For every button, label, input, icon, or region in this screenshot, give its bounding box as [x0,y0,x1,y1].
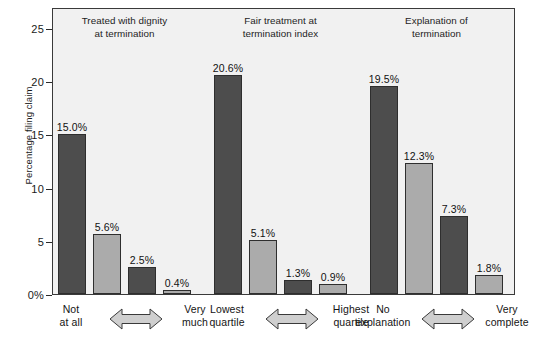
x-axis-label-left: Lowestquartile [191,303,263,328]
bar-value-label: 5.1% [241,227,285,239]
y-axis-tick-label: 15 [0,128,44,142]
x-axis-label-left-line-2: quartile [191,316,263,329]
double-arrow-icon [421,308,475,334]
group-title: Fair treatment attermination index [196,15,365,40]
x-axis-label-left-line-1: Lowest [191,303,263,316]
bar-value-label: 5.6% [85,221,129,233]
y-axis-tick-label: 0% [0,288,44,302]
plot-area: Treated with dignityat termination15.0%5… [52,8,515,295]
x-axis-label-left-line-2: at all [35,316,107,329]
bar [405,163,433,294]
bar [440,216,468,294]
bar-value-label: 20.6% [206,62,250,74]
group-title: Treated with dignityat termination [40,15,209,40]
bar-value-label: 7.3% [432,203,476,215]
x-axis-label-left-line-2: explanation [347,316,419,329]
x-axis-label-right-line-2: complete [471,316,533,329]
bar-value-label: 15.0% [50,121,94,133]
x-axis-label-left-line-1: No [347,303,419,316]
x-axis-label-left: Notat all [35,303,107,328]
double-arrow-icon [109,308,163,334]
double-arrow-icon [265,308,319,334]
bar [93,234,121,294]
y-axis-tick-label: 25 [0,22,44,36]
bar [284,280,312,294]
y-axis-tick-label: 20 [0,75,44,89]
x-axis-label-right-line-1: Very [471,303,533,316]
group-title: Explanation oftermination [352,15,521,40]
y-axis-tick-label: 10 [0,182,44,196]
bar [163,290,191,294]
bar [249,240,277,294]
bar-value-label: 19.5% [362,73,406,85]
bar-value-label: 12.3% [397,150,441,162]
bar [370,86,398,294]
group-title-line-2: termination index [196,28,365,41]
bar [128,267,156,294]
bar [58,134,86,294]
bar [475,275,503,294]
bar-value-label: 1.8% [467,262,511,274]
bar [214,75,242,294]
group-title-line-2: termination [352,28,521,41]
x-axis-label-right: Verycomplete [471,303,533,328]
group-title-line-1: Treated with dignity [40,15,209,28]
bar [319,284,347,294]
group-title-line-1: Fair treatment at [196,15,365,28]
y-axis-tick-label: 5 [0,235,44,249]
bar-value-label: 2.5% [120,254,164,266]
bar-value-label: 0.4% [155,277,199,289]
group-title-line-1: Explanation of [352,15,521,28]
y-axis-tick-mark [46,295,52,296]
bar-value-label: 0.9% [311,271,355,283]
x-axis-label-left: Noexplanation [347,303,419,328]
group-title-line-2: at termination [40,28,209,41]
x-axis-label-left-line-1: Not [35,303,107,316]
